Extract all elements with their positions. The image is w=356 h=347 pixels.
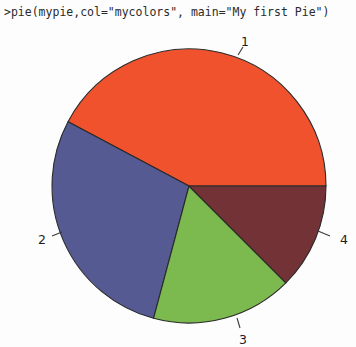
pie-label-1: 1 [241,34,249,49]
pie-label-3: 3 [239,332,247,347]
console-command-line: >pie(mypie,col="mycolors", main="My firs… [4,5,329,19]
pie-chart: 1234 [0,26,356,347]
pie-leader-line-3 [237,318,240,328]
pie-label-2: 2 [38,232,46,247]
pie-label-4: 4 [340,232,348,247]
pie-slices-group [52,49,326,323]
plot-area: 1234 [0,26,356,347]
pie-leader-line-4 [318,231,330,236]
